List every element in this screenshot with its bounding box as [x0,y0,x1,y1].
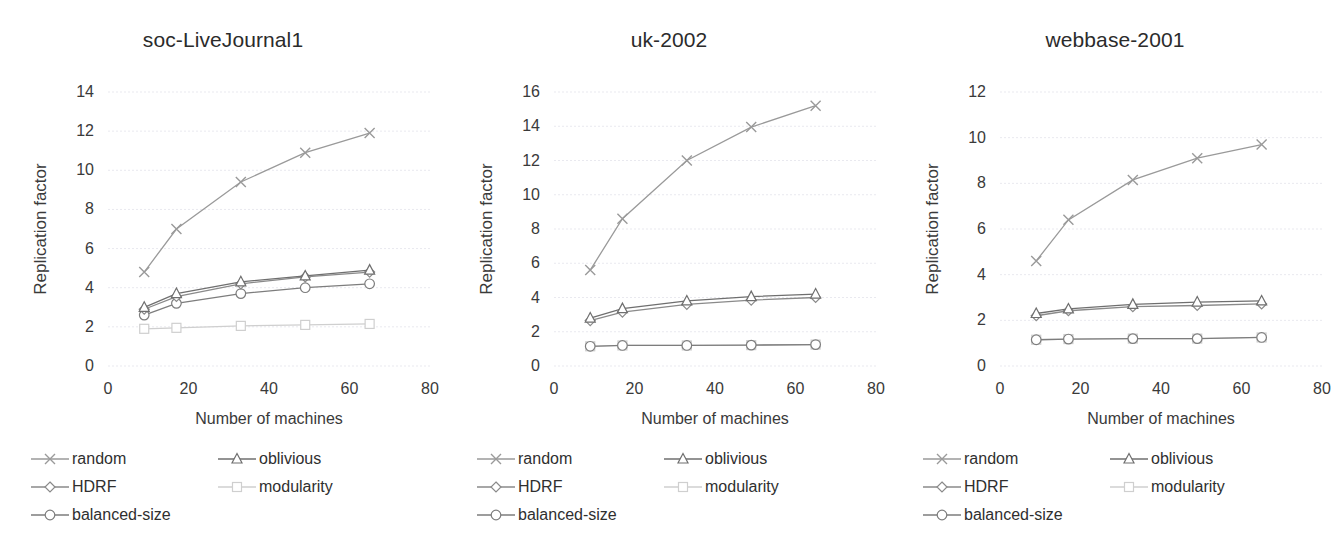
legend-item-label: oblivious [259,451,321,467]
data-point-circle [585,342,595,352]
y-tick-label: 14 [522,117,540,134]
y-axis-label: Replication factor [31,163,50,295]
data-point-diamond [491,482,501,492]
data-point-triangle [1192,297,1202,307]
series-line [590,106,815,270]
legend-item-label: balanced-size [518,507,617,523]
data-point-circle [1192,334,1202,344]
triangle-marker-icon [1109,451,1149,467]
y-tick-label: 0 [531,357,540,374]
legend-item-modularity[interactable]: modularity [663,474,838,500]
legend-item-random[interactable]: random [922,446,1097,472]
legend-item-label: modularity [259,479,333,495]
y-tick-label: 6 [977,220,986,237]
data-point-circle [811,340,821,350]
y-tick-label: 6 [85,240,94,257]
y-tick-label: 4 [531,289,540,306]
y-axis-ticks: 024681012 [968,83,986,374]
legend-item-HDRF[interactable]: HDRF [30,474,205,500]
y-tick-label: 8 [531,220,540,237]
chart-panel-soc-livejournal1: soc-LiveJournal1 02468101214020406080Rep… [0,0,446,558]
chart-legend: randomobliviousHDRFmodularitybalanced-si… [0,440,446,558]
data-point-x [1063,215,1073,225]
data-point-circle [937,510,947,520]
data-point-x [811,101,821,111]
x-axis-ticks: 020406080 [550,380,885,397]
x-marker-icon [30,451,70,467]
legend-item-random[interactable]: random [30,446,205,472]
data-point-x [236,177,246,187]
x-tick-label: 0 [104,380,113,397]
triangle-marker-icon [217,451,257,467]
data-point-triangle [365,265,375,275]
x-tick-label: 80 [867,380,885,397]
y-tick-label: 4 [977,266,986,283]
chart-panel-webbase-2001: webbase-2001 024681012020406080Replicati… [892,0,1338,558]
x-axis-label: Number of machines [1087,410,1235,427]
chart-legend: randomobliviousHDRFmodularitybalanced-si… [892,440,1338,558]
legend-item-modularity[interactable]: modularity [1109,474,1284,500]
legend-item-HDRF[interactable]: HDRF [476,474,651,500]
legend-item-label: oblivious [705,451,767,467]
plot-area: 024681012020406080Replication factorNumb… [892,0,1338,430]
legend-item-label: random [518,451,572,467]
data-point-circle [618,341,628,351]
legend-item-label: balanced-size [964,507,1063,523]
diamond-marker-icon [30,479,70,495]
data-point-square [301,320,310,329]
square-marker-icon [663,479,703,495]
x-marker-icon [476,451,516,467]
legend-item-oblivious[interactable]: oblivious [1109,446,1284,472]
data-point-x [746,122,756,132]
data-point-diamond [937,482,947,492]
series-line [1036,145,1261,261]
data-point-circle [45,510,55,520]
circle-marker-icon [476,507,516,523]
y-tick-label: 10 [522,186,540,203]
y-tick-label: 10 [968,129,986,146]
plot-area: 02468101214020406080Replication factorNu… [0,0,446,430]
legend-item-balanced-size[interactable]: balanced-size [922,502,1097,528]
gridlines [554,92,876,366]
y-tick-label: 0 [85,357,94,374]
gridlines [1000,92,1322,366]
data-point-circle [365,279,375,289]
y-axis-label: Replication factor [923,163,942,295]
legend-item-balanced-size[interactable]: balanced-size [476,502,651,528]
legend-item-HDRF[interactable]: HDRF [922,474,1097,500]
circle-marker-icon [922,507,962,523]
x-tick-label: 0 [996,380,1005,397]
y-tick-label: 0 [977,357,986,374]
data-point-circle [746,340,756,350]
legend-item-oblivious[interactable]: oblivious [663,446,838,472]
legend-item-label: HDRF [518,479,562,495]
y-tick-label: 2 [531,323,540,340]
series-random [1031,140,1266,266]
chart-svg: 024681012020406080Replication factorNumb… [892,0,1338,430]
x-tick-label: 20 [180,380,198,397]
legend-item-modularity[interactable]: modularity [217,474,392,500]
data-point-circle [236,289,246,299]
x-tick-label: 20 [1072,380,1090,397]
data-point-square [172,323,181,332]
y-axis-ticks: 02468101214 [76,83,94,374]
y-tick-label: 4 [85,279,94,296]
legend-item-label: modularity [705,479,779,495]
x-tick-label: 40 [706,380,724,397]
legend-item-balanced-size[interactable]: balanced-size [30,502,205,528]
data-point-x [617,214,627,224]
y-tick-label: 14 [76,83,94,100]
y-tick-label: 8 [977,174,986,191]
data-point-square [679,483,688,492]
square-marker-icon [1109,479,1149,495]
y-tick-label: 12 [968,83,986,100]
series-balanced-size [1031,333,1266,345]
data-point-square [365,319,374,328]
data-point-circle [682,341,692,351]
circle-marker-icon [30,507,70,523]
y-tick-label: 10 [76,161,94,178]
legend-item-oblivious[interactable]: oblivious [217,446,392,472]
series-random [139,128,374,277]
legend-item-random[interactable]: random [476,446,651,472]
y-axis-ticks: 0246810121416 [522,83,540,374]
